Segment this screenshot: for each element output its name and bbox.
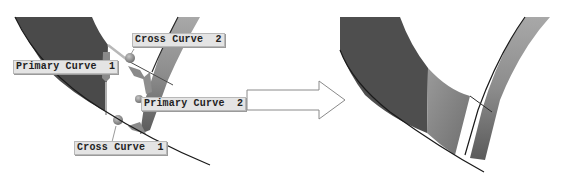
primary-surface-2-result <box>470 17 550 160</box>
control-point-cross-2[interactable] <box>125 53 135 63</box>
right-arrow-icon <box>247 81 345 119</box>
label-cross-curve-1: Cross Curve 1 <box>74 141 167 155</box>
leader-line <box>131 49 134 54</box>
leader-line <box>112 126 116 142</box>
surface-diagram <box>0 0 565 184</box>
transition-arrow <box>247 81 345 119</box>
after-view <box>340 17 550 172</box>
tangent-handle-primary-2 <box>143 72 152 94</box>
label-primary-curve-1: Primary Curve 1 <box>13 60 118 74</box>
label-primary-curve-2: Primary Curve 2 <box>141 97 246 111</box>
label-cross-curve-2: Cross Curve 2 <box>132 33 225 47</box>
